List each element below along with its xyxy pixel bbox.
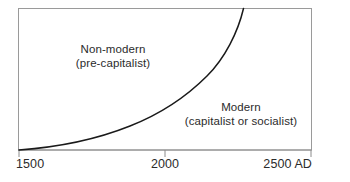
- region-label-modern-line2: (capitalist or socialist): [185, 114, 297, 128]
- x-tick-label-2000: 2000: [151, 157, 179, 172]
- region-label-non-modern-line2: (pre-capitalist): [76, 56, 150, 70]
- region-label-non-modern: Non-modern (pre-capitalist): [76, 42, 150, 70]
- plot-frame: [19, 9, 312, 151]
- chart-figure: Non-modern (pre-capitalist) Modern (capi…: [0, 0, 350, 182]
- x-tick-label-2500: 2500 AD: [263, 157, 312, 172]
- x-tick-label-1500: 1500: [16, 157, 44, 172]
- region-label-non-modern-line1: Non-modern: [76, 42, 150, 56]
- region-label-modern: Modern (capitalist or socialist): [185, 100, 297, 128]
- region-label-modern-line1: Modern: [185, 100, 297, 114]
- plot-area: [0, 0, 350, 182]
